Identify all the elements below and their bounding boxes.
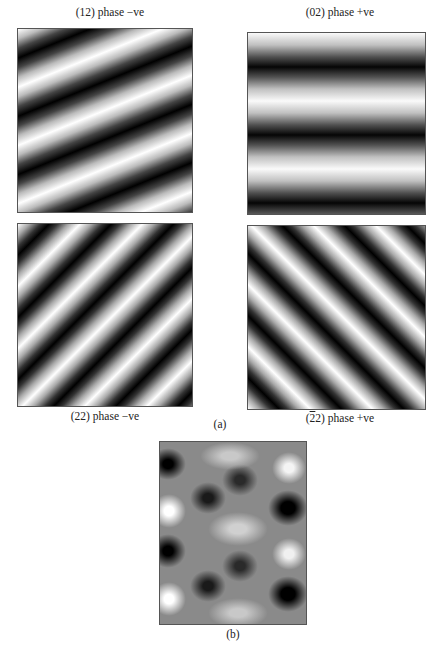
- caption-02: (02) phase +ve: [290, 6, 390, 18]
- fringe-panel-22: [17, 223, 193, 407]
- fringe-panel-02: [247, 32, 426, 215]
- part-a-label: (a): [205, 418, 235, 430]
- part-b-label: (b): [218, 628, 248, 640]
- fringe-panel-bar22: [247, 225, 426, 410]
- caption-12: (12) phase −ve: [60, 6, 160, 18]
- superposition-panel: [159, 441, 307, 625]
- fringe-panel-12: [17, 28, 193, 213]
- caption-bar22: (22) phase +ve: [290, 412, 390, 424]
- caption-22: (22) phase −ve: [55, 410, 155, 422]
